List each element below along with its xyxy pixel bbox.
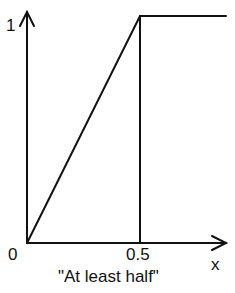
y-tick-one: 1 xyxy=(6,17,15,34)
x-axis-label: x xyxy=(211,256,220,273)
function-curve xyxy=(27,16,226,243)
chart-caption: "At least half" xyxy=(58,268,159,285)
x-tick-half: 0.5 xyxy=(126,246,150,263)
membership-function-plot xyxy=(0,0,235,293)
origin-label: 0 xyxy=(8,246,17,263)
